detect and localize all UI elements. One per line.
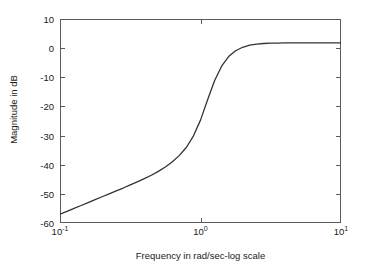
x-tick-label: 100 xyxy=(193,227,207,237)
x-tick-label: 10-1 xyxy=(52,227,69,237)
y-axis-title: Magnitude in dB xyxy=(8,45,19,175)
bode-magnitude-plot: 10 0 -10 -20 -30 -40 -50 -60 xyxy=(0,0,365,273)
y-tick-label: -50 xyxy=(40,190,54,200)
x-axis-title: Frequency in rad/sec-log scale xyxy=(60,250,341,261)
x-tick-label: 101 xyxy=(334,227,348,237)
y-tick-label: -10 xyxy=(40,73,54,83)
magnitude-curve xyxy=(60,19,341,223)
y-tick-label: -20 xyxy=(40,102,54,112)
y-tick-label: -30 xyxy=(40,132,54,142)
x-axis-tick-labels: 10-1 100 101 xyxy=(60,227,341,241)
y-tick-label: 10 xyxy=(43,15,54,25)
y-tick-label: -40 xyxy=(40,161,54,171)
y-tick-label: 0 xyxy=(49,44,54,54)
plot-area xyxy=(60,19,341,223)
